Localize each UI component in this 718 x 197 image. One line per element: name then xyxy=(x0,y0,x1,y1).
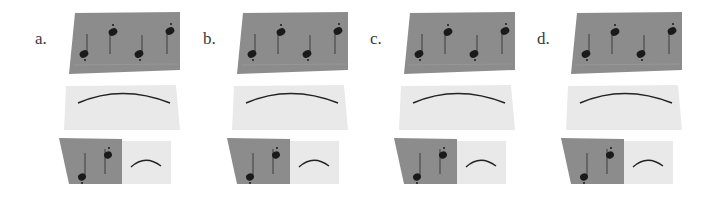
figure-panel-d: d. xyxy=(537,0,712,197)
arc-card xyxy=(64,84,184,132)
composite-card xyxy=(561,137,676,189)
music-notes-card xyxy=(404,12,524,76)
panel-label: c. xyxy=(370,29,382,49)
music-notes-card xyxy=(69,12,189,76)
panel-label: a. xyxy=(35,29,47,49)
music-notes-card xyxy=(571,12,691,76)
composite-card xyxy=(227,137,342,189)
figure-panel-c: c. xyxy=(370,0,545,197)
figure-panel-a: a. xyxy=(35,0,210,197)
composite-card xyxy=(59,137,174,189)
arc-card xyxy=(399,84,519,132)
composite-card xyxy=(394,137,509,189)
panel-label: b. xyxy=(203,29,216,49)
arc-card xyxy=(566,84,686,132)
arc-card xyxy=(232,84,352,132)
figure-panel-b: b. xyxy=(203,0,378,197)
music-notes-card xyxy=(237,12,357,76)
panel-label: d. xyxy=(537,29,550,49)
